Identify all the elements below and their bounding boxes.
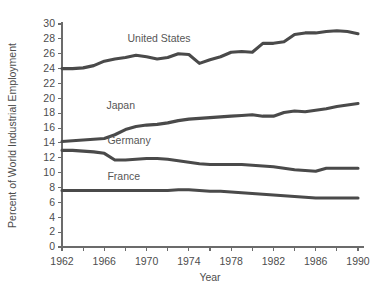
y-axis-tick-label: 18 [43,106,55,118]
x-axis-title: Year [199,271,221,283]
y-axis-tick-label: 12 [43,151,55,163]
y-axis-tick-label: 6 [49,196,55,208]
x-axis-tick-label: 1990 [346,255,370,267]
series-label-united-states: United States [128,32,191,44]
y-axis-title: Percent of World Industrial Employment [6,43,18,228]
y-axis-tick-label: 24 [43,62,55,74]
x-axis-tick-label: 1986 [304,255,328,267]
series-line-france [62,190,358,198]
series-label-japan: Japan [106,99,135,111]
x-axis-tick-label: 1978 [219,255,243,267]
x-axis-tick-label: 1982 [262,255,286,267]
y-axis-tick-label: 16 [43,121,55,133]
series-label-france: France [107,170,140,182]
x-axis-tick-label: 1974 [177,255,201,267]
line-chart: 0246810121416182022242628301962196619701… [0,0,375,297]
y-axis-tick-label: 28 [43,32,55,44]
x-axis-tick-label: 1970 [135,255,159,267]
series-label-germany: Germany [107,134,151,146]
y-axis-tick-label: 22 [43,77,55,89]
x-axis-tick-label: 1966 [93,255,117,267]
y-axis-tick-label: 20 [43,92,55,104]
series-line-united-states [62,31,358,69]
chart-container: 0246810121416182022242628301962196619701… [0,0,375,297]
y-axis-tick-label: 2 [49,225,55,237]
y-axis-tick-label: 26 [43,47,55,59]
y-axis-tick-label: 10 [43,166,55,178]
y-axis-tick-label: 14 [43,136,55,148]
x-axis-tick-label: 1962 [50,255,74,267]
y-axis-tick-label: 0 [49,240,55,252]
y-axis-tick-label: 8 [49,181,55,193]
y-axis-tick-label: 30 [43,17,55,29]
series-line-germany [62,150,358,171]
y-axis-tick-label: 4 [49,211,55,223]
